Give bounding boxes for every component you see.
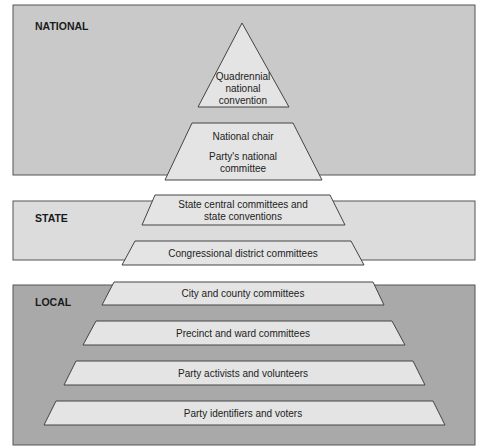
node-label: State central committees and [178,199,308,210]
node-label: Congressional district committees [168,248,318,259]
node-label: Quadrennial [216,71,270,82]
node-label: Precinct and ward committees [176,328,310,339]
node-label: convention [219,95,267,106]
node-label: Party activists and volunteers [178,368,308,379]
level-label-local: LOCAL [35,296,72,308]
node-label: City and county committees [182,288,305,299]
level-label-state: STATE [35,212,68,224]
party-organization-diagram: NATIONAL STATE LOCAL Quadrennial nationa… [0,0,481,448]
node-label: national [225,83,260,94]
node-label: Party's national [209,151,277,162]
level-label-national: NATIONAL [35,20,89,32]
node-label: Party identifiers and voters [184,408,302,419]
node-label: state conventions [204,211,282,222]
node-label: committee [220,163,267,174]
node-label: National chair [212,131,274,142]
